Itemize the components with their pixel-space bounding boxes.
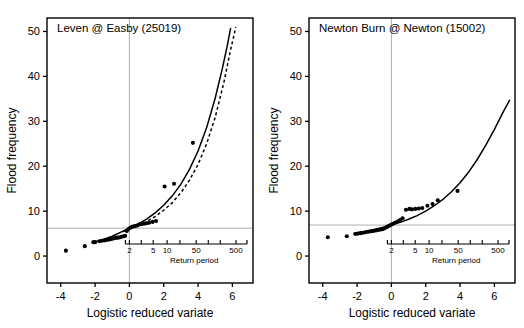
return-period-tick-label: 2 [389, 246, 394, 255]
data-point [147, 221, 151, 225]
data-point [326, 235, 330, 239]
data-point [83, 244, 87, 248]
y-tick-label: 0 [296, 250, 302, 262]
return-period-tick-label: 10 [163, 246, 172, 255]
data-point [413, 207, 417, 211]
x-tick-label: 6 [491, 290, 497, 302]
y-tick-label: 40 [290, 70, 302, 82]
y-tick-label: 30 [290, 115, 302, 127]
data-point [64, 249, 68, 253]
data-point [93, 240, 97, 244]
series-curve-solid [354, 100, 510, 234]
return-period-tick-label: 2 [127, 246, 132, 255]
data-point [154, 219, 158, 223]
return-period-tick-label: 5 [151, 246, 156, 255]
x-tick-label: 4 [457, 290, 463, 302]
x-axis-title: Logistic reduced variate [87, 306, 214, 320]
y-tick-label: 10 [28, 205, 40, 217]
x-tick-label: 0 [388, 290, 394, 302]
x-tick-label: 6 [229, 290, 235, 302]
x-tick-label: -2 [90, 290, 100, 302]
data-point [404, 208, 408, 212]
y-tick-label: 20 [28, 160, 40, 172]
data-point [123, 234, 127, 238]
data-point [455, 189, 459, 193]
plot-frame [309, 18, 515, 283]
panel-title: Newton Burn @ Newton (15002) [319, 22, 486, 34]
return-period-tick-label: 10 [425, 246, 434, 255]
return-period-axis-title: Return period [432, 256, 480, 265]
return-period-tick-label: 50 [192, 246, 201, 255]
panel-title: Leven @ Easby (25019) [57, 22, 181, 34]
x-axis-title: Logistic reduced variate [349, 306, 476, 320]
data-point [420, 206, 424, 210]
chart-svg-left: 01020304050-4-20246Logistic reduced vari… [0, 0, 262, 328]
y-tick-label: 30 [28, 115, 40, 127]
x-tick-label: -4 [318, 290, 328, 302]
return-period-tick-label: 500 [491, 246, 505, 255]
y-axis-title: Flood frequency [5, 107, 19, 193]
data-point [401, 216, 405, 220]
x-tick-label: -4 [56, 290, 66, 302]
data-point [425, 204, 429, 208]
plot-frame [47, 18, 253, 283]
series-curve-dashed [123, 27, 236, 232]
chart-panel-right: 01020304050-4-20246Logistic reduced vari… [262, 0, 524, 328]
data-point [436, 198, 440, 202]
chart-svg-right: 01020304050-4-20246Logistic reduced vari… [262, 0, 524, 328]
y-tick-label: 20 [290, 160, 302, 172]
y-tick-label: 0 [34, 250, 40, 262]
x-tick-label: -2 [352, 290, 362, 302]
data-point [151, 220, 155, 224]
y-axis-title: Flood frequency [267, 107, 281, 193]
y-tick-label: 50 [28, 25, 40, 37]
data-point [163, 184, 167, 188]
return-period-tick-label: 50 [454, 246, 463, 255]
x-tick-label: 2 [161, 290, 167, 302]
data-point [172, 182, 176, 186]
x-tick-label: 2 [423, 290, 429, 302]
return-period-tick-label: 500 [229, 246, 243, 255]
x-tick-label: 0 [126, 290, 132, 302]
data-point [431, 202, 435, 206]
return-period-tick-label: 5 [413, 246, 418, 255]
data-point [345, 234, 349, 238]
y-tick-label: 10 [290, 205, 302, 217]
data-point [191, 141, 195, 145]
y-tick-label: 40 [28, 70, 40, 82]
figure-root: 01020304050-4-20246Logistic reduced vari… [0, 0, 524, 328]
x-tick-label: 4 [195, 290, 201, 302]
chart-panel-left: 01020304050-4-20246Logistic reduced vari… [0, 0, 262, 328]
return-period-axis-title: Return period [170, 256, 218, 265]
y-tick-label: 50 [290, 25, 302, 37]
